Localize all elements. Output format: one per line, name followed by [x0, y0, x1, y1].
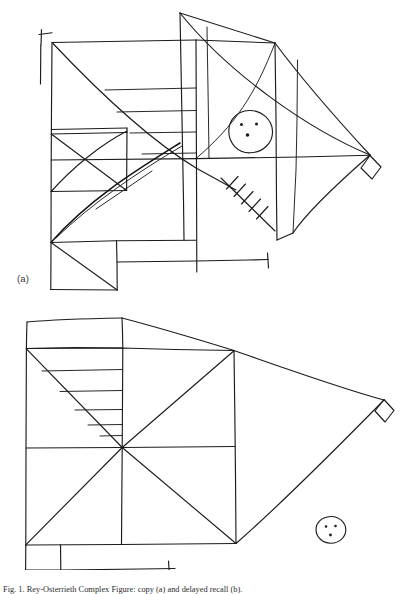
top-slant-line-b: [122, 318, 234, 351]
figure-caption: Fig. 1. Rey-Osterrieth Complex Figure: c…: [3, 585, 408, 594]
figure-page: (a): [0, 0, 411, 594]
horizontal-parallel-lines-b: [42, 370, 123, 437]
horizontal-midline-a: [51, 155, 370, 160]
bottom-left-rectangle-a: [51, 241, 117, 290]
diagonal-minor-a: [52, 143, 182, 242]
hatched-oblique-line-a: [221, 177, 275, 232]
left-cross-tick-icon-a: [39, 30, 52, 85]
complex-figure-drawing-b: [0, 300, 411, 570]
complex-figure-drawing-a: [0, 0, 411, 300]
panel-label-a: (a): [17, 274, 29, 284]
bottom-bar-with-tick-b: [26, 545, 175, 570]
outer-rectangle-a: [51, 40, 196, 243]
top-band-rectangle-b: [26, 318, 122, 349]
diamond-at-apex-b: [375, 400, 394, 423]
circle-with-dots-b: [316, 516, 346, 543]
bottom-bar-with-tick-a: [117, 253, 269, 268]
right-triangle-b: [234, 351, 384, 544]
vertical-band-lines-a: [180, 13, 209, 272]
diamond-at-apex-a: [361, 156, 381, 180]
circle-with-dots-a: [229, 110, 273, 152]
figure-panel-b: (b): [0, 300, 411, 570]
figure-panel-a: (a): [0, 0, 411, 300]
horizontal-midline-b: [26, 447, 235, 449]
